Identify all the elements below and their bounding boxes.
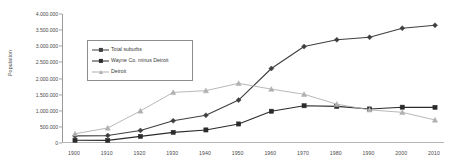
population-line-chart: Population 0500.0001.000.0001.500.0002.0…: [0, 0, 450, 168]
data-point-marker: [237, 122, 241, 126]
x-tick-label: 2000: [386, 150, 416, 156]
x-tick-label: 1910: [92, 150, 122, 156]
legend-label: Wayne Co. minus Detroit: [111, 58, 168, 63]
data-point-marker: [106, 138, 110, 142]
x-tick-label: 1980: [321, 150, 351, 156]
x-tick-label: 1900: [59, 150, 89, 156]
legend-symbol: [99, 70, 103, 74]
x-tick-label: 2010: [419, 150, 449, 156]
legend-item[interactable]: Wayne Co. minus Detroit: [92, 55, 192, 66]
data-point-marker: [171, 118, 176, 123]
series-wayne-co-minus-detroit: [73, 104, 437, 143]
data-point-marker: [138, 128, 143, 133]
x-tick-label: 1940: [190, 150, 220, 156]
data-point-marker: [433, 105, 437, 109]
y-tick-label: 0: [16, 140, 58, 146]
data-point-marker: [171, 130, 175, 134]
data-point-marker: [334, 37, 339, 42]
legend-symbol: [98, 58, 102, 62]
x-tick-label: 1970: [288, 150, 318, 156]
data-point-marker: [400, 26, 405, 31]
data-point-marker: [269, 109, 273, 113]
x-tick-label: 1950: [223, 150, 253, 156]
data-point-marker: [302, 104, 306, 108]
data-point-marker: [400, 105, 404, 109]
x-tick-label: 1990: [354, 150, 384, 156]
data-point-marker: [236, 81, 241, 86]
legend-symbol: [98, 47, 102, 51]
data-point-marker: [138, 134, 142, 138]
data-point-marker: [367, 35, 372, 40]
legend-label: Detroit: [111, 69, 126, 74]
y-tick-label: 1.500.000: [16, 92, 58, 98]
y-tick-label: 1.000.000: [16, 108, 58, 114]
x-tick-label: 1930: [157, 150, 187, 156]
legend-marker-diamond-icon: [92, 45, 109, 54]
y-tick-label: 4.000.000: [16, 11, 58, 17]
data-point-marker: [433, 23, 438, 28]
data-point-marker: [105, 133, 110, 138]
data-point-marker: [204, 128, 208, 132]
y-tick-label: 3.500.000: [16, 27, 58, 33]
y-tick-label: 2.000.000: [16, 76, 58, 82]
data-point-marker: [105, 125, 110, 130]
legend-marker-triangle-icon: [92, 67, 109, 76]
legend-marker-square-icon: [92, 56, 109, 65]
data-point-marker: [138, 108, 143, 113]
y-tick-label: 3.000.000: [16, 43, 58, 49]
x-tick-label: 1920: [124, 150, 154, 156]
legend-label: Total suburbs: [111, 47, 142, 52]
y-tick-label: 2.500.000: [16, 59, 58, 65]
legend-item[interactable]: Total suburbs: [92, 44, 192, 55]
chart-legend: Total suburbsWayne Co. minus DetroitDetr…: [87, 40, 193, 81]
data-point-marker: [203, 113, 208, 118]
x-tick-label: 1960: [255, 150, 285, 156]
y-tick-label: 500.000: [16, 124, 58, 130]
legend-item[interactable]: Detroit: [92, 66, 192, 77]
data-point-marker: [73, 138, 77, 142]
